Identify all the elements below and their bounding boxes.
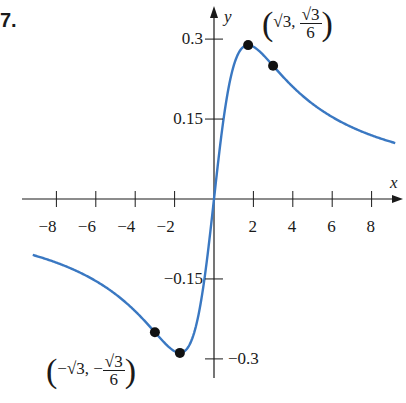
- plot-area: [0, 0, 406, 403]
- marked-point: [175, 348, 185, 358]
- x-tick-label: 2: [248, 218, 257, 235]
- x-tick-label: −4: [117, 218, 135, 235]
- y-axis-label: y: [224, 8, 232, 25]
- marked-point: [150, 327, 160, 337]
- y-tick-label: −0.3: [228, 350, 259, 367]
- x-tick-label: −8: [38, 218, 56, 235]
- x-axis-arrow-icon: [392, 195, 403, 203]
- marked-point: [268, 61, 278, 71]
- y-tick-label: 0.3: [182, 30, 203, 47]
- x-tick-label: 6: [327, 218, 336, 235]
- y-tick-label: 0.15: [173, 110, 203, 127]
- y-tick-label: −0.15: [164, 270, 203, 287]
- x-tick-label: −2: [157, 218, 175, 235]
- max-point-label: (√3, √36): [262, 6, 333, 41]
- x-tick-label: 4: [288, 218, 297, 235]
- problem-number: 7.: [0, 10, 17, 30]
- x-tick-label: −6: [78, 218, 96, 235]
- min-point-label: (−√3, −√36): [46, 353, 136, 388]
- marked-point: [243, 40, 253, 50]
- x-axis-label: x: [390, 174, 398, 191]
- y-axis-arrow-icon: [210, 6, 218, 18]
- x-tick-label: 8: [367, 218, 376, 235]
